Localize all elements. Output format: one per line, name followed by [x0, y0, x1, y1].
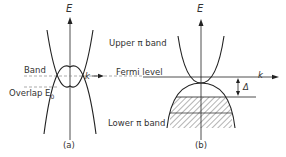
panel-a-caption: (a): [63, 141, 75, 150]
panel-b-lower-band-label: Lower π band: [108, 119, 165, 128]
panel-a-overlap-text: Overlap E: [9, 88, 50, 98]
panel-b-e-arrow-icon: [199, 19, 204, 26]
panel-b-gap-arrow-down-icon: [236, 91, 240, 96]
panel-b-caption: (b): [195, 141, 207, 150]
panel-a-k-arrow-icon: [98, 74, 104, 78]
panel-a-overlap-label: Overlap E0: [9, 89, 54, 100]
panel-b-k-axis-label: k: [258, 71, 263, 80]
band-structure-diagram: E k Band Overlap E0 (a) E k Upper π band…: [0, 0, 286, 157]
panel-b-gap-label: Δ: [243, 83, 249, 92]
panel-b-upper-band-label: Upper π band: [109, 39, 167, 48]
panel-a-k-axis-label: k: [85, 72, 90, 81]
diagram-svg: [0, 0, 286, 157]
panel-a-e-axis-label: E: [66, 4, 72, 14]
panel-b-e-axis-label: E: [197, 4, 203, 14]
panel-a-overlap-subscript: 0: [50, 93, 54, 100]
panel-b-fermi-level-label: Fermi level: [116, 68, 163, 77]
panel-a-band-label: Band: [24, 66, 46, 75]
panel-a-e-arrow-icon: [68, 17, 73, 24]
panel-b-gap-arrow-up-icon: [236, 78, 240, 83]
panel-b-k-arrow-icon: [272, 75, 279, 79]
